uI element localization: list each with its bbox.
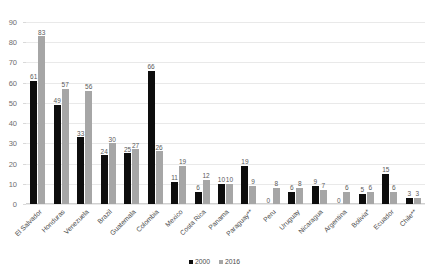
bar: 10 xyxy=(226,184,233,204)
bar: 9 xyxy=(312,186,319,204)
bar: 7 xyxy=(320,190,327,204)
bar-value-label: 11 xyxy=(171,174,178,181)
bar-group: 97 xyxy=(308,22,331,204)
bar-series-container: 6183495733562430252766261119612101019908… xyxy=(26,22,425,204)
x-axis-tick: Argentina xyxy=(331,206,354,252)
bar: 61 xyxy=(30,81,37,204)
x-axis-tick: Chile** xyxy=(402,206,425,252)
bar-value-label: 30 xyxy=(109,136,116,143)
bar: 11 xyxy=(171,182,178,204)
bar-value-label: 6 xyxy=(392,184,396,191)
bar-value-label: 6 xyxy=(345,184,349,191)
bar: 15 xyxy=(382,174,389,204)
gridline xyxy=(26,204,425,205)
bar: 9 xyxy=(249,186,256,204)
bar: 3 xyxy=(406,198,413,204)
bar: 57 xyxy=(62,89,69,204)
plot-area: 9080706050403020100 61834957335624302527… xyxy=(26,22,425,204)
bar: 6 xyxy=(195,192,202,204)
bar-group: 1119 xyxy=(167,22,190,204)
bar: 8 xyxy=(296,188,303,204)
legend-label: 2000 xyxy=(195,258,210,266)
bar-value-label: 66 xyxy=(147,63,154,70)
bar-value-label: 6 xyxy=(196,184,200,191)
bar-value-label: 7 xyxy=(322,182,326,189)
bar-group: 06 xyxy=(331,22,354,204)
bar-group: 4957 xyxy=(49,22,72,204)
x-axis-tick-label: Chile** xyxy=(399,208,419,228)
y-axis-tick-label: 70 xyxy=(0,59,17,67)
y-axis-tick-label: 30 xyxy=(0,140,17,148)
bar-value-label: 61 xyxy=(30,73,37,80)
bar-value-label: 10 xyxy=(218,176,225,183)
bar: 33 xyxy=(77,137,84,204)
bar: 30 xyxy=(109,143,116,204)
bar-group: 199 xyxy=(237,22,260,204)
bar-group: 68 xyxy=(284,22,307,204)
bar-value-label: 3 xyxy=(415,190,419,197)
bar: 8 xyxy=(273,188,280,204)
bar: 19 xyxy=(179,166,186,204)
bar: 49 xyxy=(54,105,61,204)
bar-value-label: 57 xyxy=(62,81,69,88)
bar-value-label: 0 xyxy=(267,197,271,204)
bar: 12 xyxy=(203,180,210,204)
x-axis-tick-label: Mexico xyxy=(163,208,184,229)
bar-group: 56 xyxy=(355,22,378,204)
bar-group: 6626 xyxy=(143,22,166,204)
x-axis-tick: Venezuela xyxy=(73,206,96,252)
bar: 83 xyxy=(38,36,45,204)
bar: 26 xyxy=(156,151,163,204)
bar-value-label: 6 xyxy=(290,184,294,191)
bar-value-label: 33 xyxy=(77,130,84,137)
bar-value-label: 8 xyxy=(298,180,302,187)
bar-group: 2527 xyxy=(120,22,143,204)
bar-value-label: 24 xyxy=(101,148,108,155)
legend-label: 2016 xyxy=(225,258,240,266)
y-axis-tick-label: 20 xyxy=(0,160,17,168)
bar-value-label: 49 xyxy=(54,97,61,104)
bar-value-label: 19 xyxy=(241,158,248,165)
bar-group: 156 xyxy=(378,22,401,204)
bar: 3 xyxy=(414,198,421,204)
bar-value-label: 9 xyxy=(314,178,318,185)
bar-value-label: 10 xyxy=(226,176,233,183)
chart-legend: 20002016 xyxy=(0,258,429,266)
legend-item[interactable]: 2016 xyxy=(219,258,240,266)
x-axis-tick: Ecuador xyxy=(378,206,401,252)
bar: 19 xyxy=(241,166,248,204)
bar-value-label: 9 xyxy=(251,178,255,185)
y-axis-tick-mark xyxy=(23,204,26,205)
legend-swatch xyxy=(219,260,223,264)
bar-value-label: 26 xyxy=(155,144,162,151)
y-axis-tick-label: 50 xyxy=(0,99,17,107)
bar: 6 xyxy=(343,192,350,204)
bar-value-label: 12 xyxy=(202,172,209,179)
bar-value-label: 15 xyxy=(382,166,389,173)
bar-value-label: 27 xyxy=(132,142,139,149)
bar-chart: 9080706050403020100 61834957335624302527… xyxy=(0,0,429,276)
legend-item[interactable]: 2000 xyxy=(189,258,210,266)
bar: 6 xyxy=(367,192,374,204)
bar-group: 1010 xyxy=(214,22,237,204)
bar-value-label: 83 xyxy=(38,29,45,36)
bar: 27 xyxy=(132,149,139,204)
bar-group: 33 xyxy=(402,22,425,204)
bar: 66 xyxy=(148,71,155,204)
bar-group: 2430 xyxy=(96,22,119,204)
bar: 25 xyxy=(124,153,131,204)
bar: 24 xyxy=(101,155,108,204)
bar-value-label: 3 xyxy=(407,190,411,197)
bar-value-label: 25 xyxy=(124,146,131,153)
x-axis-tick: Colombia xyxy=(143,206,166,252)
x-axis-tick-label: El Salvador xyxy=(13,208,43,238)
x-axis-tick-label: Peru xyxy=(262,208,278,224)
y-axis-tick-label: 80 xyxy=(0,39,17,47)
y-axis-tick-label: 40 xyxy=(0,120,17,128)
y-axis-tick-label: 90 xyxy=(0,19,17,27)
y-axis-tick-label: 0 xyxy=(0,201,17,209)
x-axis-labels: El SalvadorHondurasVenezuelaBrazilGuatem… xyxy=(26,206,425,252)
bar-value-label: 56 xyxy=(85,83,92,90)
x-axis-tick-label: Brazil xyxy=(96,208,114,226)
bar-value-label: 0 xyxy=(337,197,341,204)
